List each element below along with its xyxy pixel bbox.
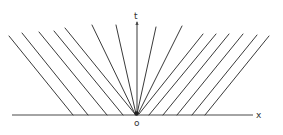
- right-characteristic-line-2: [138, 26, 182, 114]
- origin-label: o: [134, 118, 140, 128]
- left-characteristic-lines: [9, 25, 136, 115]
- left-characteristic-line-2: [22, 33, 88, 115]
- right-characteristic-line-8: [205, 36, 269, 115]
- left-characteristic-line-1: [9, 36, 73, 115]
- t-axis-arrow-icon: [135, 21, 138, 25]
- right-characteristic-line-4: [149, 34, 216, 115]
- right-characteristic-line-3: [139, 34, 203, 114]
- right-characteristic-line-1: [137, 27, 156, 114]
- right-characteristic-line-6: [177, 34, 243, 115]
- t-axis-label: t: [134, 11, 138, 21]
- left-characteristic-line-4: [54, 31, 123, 115]
- characteristics-diagram: t x o: [0, 0, 283, 135]
- right-characteristic-line-7: [192, 35, 257, 115]
- right-characteristic-lines: [137, 26, 269, 115]
- left-characteristic-line-3: [39, 32, 107, 115]
- left-characteristic-line-7: [116, 25, 136, 114]
- x-axis-label: x: [256, 110, 262, 120]
- origin-focus-point: [134, 111, 138, 115]
- right-characteristic-line-5: [163, 34, 229, 115]
